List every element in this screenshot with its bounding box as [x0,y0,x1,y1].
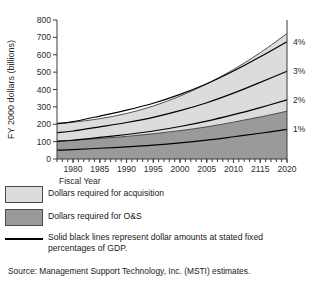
x-tick-label: 2005 [197,164,216,174]
chart-page: 0100200300400500600700800198019851990199… [0,0,320,284]
x-tick-label: 2020 [278,164,297,174]
y-axis-title: FY 2000 dollars (billions) [6,40,16,139]
legend-line-cell [0,232,48,245]
x-axis-title: Fiscal Year [59,176,101,186]
x-tick-label: 2115 [251,164,270,174]
x-tick-label: 1990 [117,164,136,174]
solid-line-icon [5,238,43,240]
plot-area: 0100200300400500600700800198019851990199… [6,15,306,186]
x-tick-label: 1995 [144,164,163,174]
x-tick-label: 2000 [171,164,190,174]
x-tick-label: 2010 [224,164,243,174]
x-tick-label: 1980 [64,164,83,174]
legend-label-gdp-line1: Solid black lines represent dollar amoun… [48,232,263,243]
right-label-1pct: 1% [293,124,306,134]
y-tick-label: 800 [37,15,51,25]
os-swatch [5,209,43,226]
legend-swatch-cell [0,209,48,226]
legend-label-gdp-lines: Solid black lines represent dollar amoun… [48,232,263,253]
y-tick-label: 400 [37,85,51,95]
legend-swatch-cell [0,186,48,203]
legend-item-acquisition: Dollars required for acquisition [0,186,320,203]
legend-label-os: Dollars required for O&S [48,209,142,222]
y-tick-label: 0 [46,154,51,164]
x-tick-label: 1985 [90,164,109,174]
y-tick-label: 700 [37,32,51,42]
right-label-3pct: 3% [293,66,306,76]
chart-legend: Dollars required for acquisition Dollars… [0,186,320,259]
y-tick-label: 200 [37,119,51,129]
source-note: Source: Management Support Technology, I… [8,266,318,276]
y-tick-label: 500 [37,67,51,77]
acquisition-swatch [5,186,43,203]
legend-label-gdp-line2: percentages of GDP. [48,243,263,254]
right-label-2pct: 2% [293,95,306,105]
right-label-4pct: 4% [293,37,306,47]
y-tick-label: 100 [37,137,51,147]
gdp-defense-spending-chart: 0100200300400500600700800198019851990199… [0,0,320,186]
y-tick-label: 600 [37,50,51,60]
legend-label-acquisition: Dollars required for acquisition [48,186,164,199]
legend-item-os: Dollars required for O&S [0,209,320,226]
legend-item-gdp-lines: Solid black lines represent dollar amoun… [0,232,320,253]
y-tick-label: 300 [37,102,51,112]
